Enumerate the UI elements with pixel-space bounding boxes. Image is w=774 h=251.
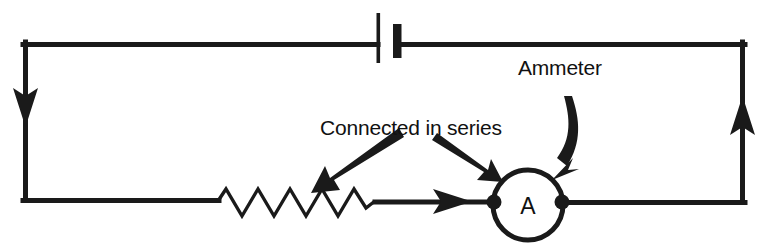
ammeter-left-node-dot [487, 195, 502, 210]
ammeter-right-node-dot [555, 195, 570, 210]
pointer-ammeter-curved-icon [552, 96, 579, 180]
battery-symbol [377, 13, 402, 63]
ammeter-symbol-letter: A [520, 193, 536, 219]
circuit-diagram: A Ammeter Connected in series [0, 0, 774, 251]
circuit-diagram-canvas: A Ammeter Connected in series [0, 0, 774, 251]
connected-in-series-label: Connected in series [320, 116, 502, 139]
resistor-symbol [218, 189, 375, 216]
pointer-to-ammeter-icon [432, 133, 503, 182]
ammeter-label: Ammeter [518, 56, 602, 79]
battery-positive-plate [377, 13, 381, 63]
battery-negative-plate [393, 24, 402, 58]
